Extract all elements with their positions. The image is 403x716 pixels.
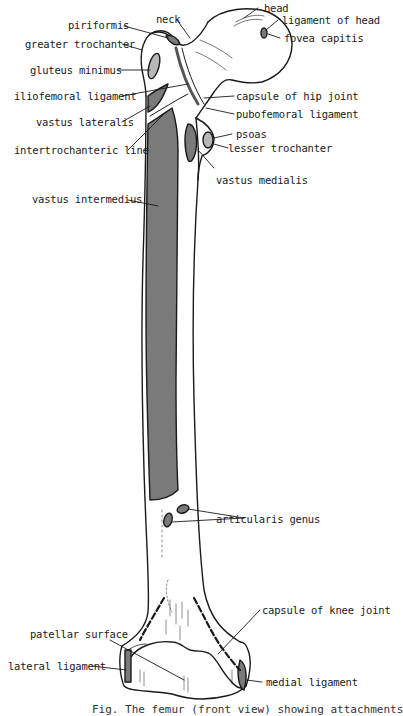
label-vastus-medialis: vastus medialis: [216, 174, 308, 186]
knee-capsule-dashed-left: [140, 598, 164, 640]
label-vastus-intermedius: vastus intermedius: [32, 193, 142, 205]
label-articularis-genus: articularis genus: [216, 513, 320, 525]
label-medial-ligament: medial ligament: [266, 676, 358, 688]
label-vastus-lateralis: vastus lateralis: [36, 116, 134, 128]
label-iliofemoral-ligament: iliofemoral ligament: [14, 90, 136, 102]
label-patellar-surface: patellar surface: [30, 628, 128, 640]
label-gluteus-minimus: gluteus minimus: [30, 64, 122, 76]
vastus-intermedius-attachment: [146, 108, 178, 500]
label-greater-trochanter: greater trochanter: [25, 38, 135, 50]
label-lateral-ligament: lateral ligament: [8, 660, 106, 672]
label-head: head: [264, 2, 289, 14]
distal-condyles: [120, 642, 250, 699]
shaft-medial-border: [193, 118, 240, 642]
label-neck: neck: [156, 13, 181, 25]
label-intertrochanteric-line: intertrochanteric line: [14, 144, 149, 156]
articularis-genus-1: [162, 512, 173, 528]
label-capsule-of-hip-joint: capsule of hip joint: [236, 90, 358, 102]
vastus-medialis-attachment: [185, 124, 197, 162]
figure-caption: Fig. The femur (front view) showing atta…: [92, 703, 403, 716]
hip-capsule-band: [176, 48, 198, 104]
label-fovea-capitis: fovea capitis: [284, 32, 364, 44]
label-lesser-trochanter: lesser trochanter: [228, 142, 332, 154]
shaft-lateral-border: [122, 96, 149, 646]
label-capsule-of-knee-joint: capsule of knee joint: [262, 604, 391, 616]
label-pubofemoral-ligament: pubofemoral ligament: [236, 108, 358, 120]
label-piriformis: piriformis: [68, 19, 129, 31]
lateral-ligament-attachment: [125, 650, 131, 682]
label-psoas: psoas: [236, 128, 267, 140]
psoas-attachment: [203, 132, 213, 148]
label-ligament-of-head: ligament of head: [282, 14, 380, 26]
